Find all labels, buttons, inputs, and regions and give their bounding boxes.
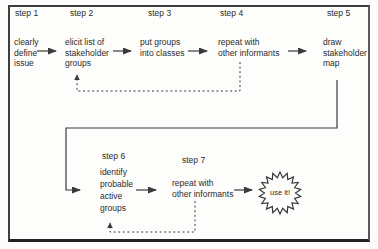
step2-label: step 2: [70, 8, 93, 18]
step6-label: step 6: [102, 151, 125, 161]
step1-label: step 1: [15, 8, 38, 18]
step3-label: step 3: [148, 8, 171, 18]
step5-label: step 5: [327, 8, 350, 18]
use-it-label: use it!: [250, 188, 310, 197]
step3-text: put groups into classes: [140, 37, 184, 58]
step2-text: elicit list of stakeholder groups: [65, 37, 109, 69]
step7-label: step 7: [182, 155, 205, 165]
step4-text: repeat with other informants: [218, 37, 279, 58]
step6-text: identify probable active groups: [100, 166, 133, 214]
step1-text: clearly define issue: [14, 37, 39, 69]
stakeholder-mapping-flowchart: step 1 step 2 step 3 step 4 step 5 clear…: [0, 0, 378, 249]
step5-text: draw stakeholder map: [323, 37, 367, 69]
step7-text: repeat with other informants: [172, 178, 233, 199]
step4-label: step 4: [220, 8, 243, 18]
connector-lines: [0, 0, 378, 249]
